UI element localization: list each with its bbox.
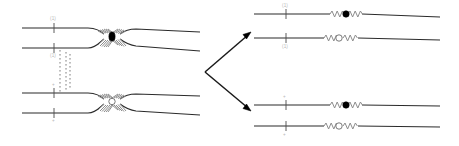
right-strand-2-label: (1)	[282, 44, 288, 49]
strand-2-line-out	[120, 39, 200, 51]
strand-4-line	[22, 104, 104, 113]
right-strand-3-line-out	[362, 105, 440, 106]
right-strand-1-line-out	[362, 14, 440, 17]
right-strand-2-squiggle-right	[343, 35, 357, 41]
strand-1-label: (1)	[50, 16, 56, 21]
figure-canvas: (1) (1) + +	[0, 0, 459, 146]
upper-right-panel: (1) (1)	[254, 3, 440, 49]
arrow-branch-up	[205, 35, 248, 72]
right-strand-4-squiggle-right	[343, 123, 357, 129]
right-strand-1-label: (1)	[282, 3, 288, 8]
branching-arrow	[205, 32, 251, 111]
right-strand-3-node-filled	[343, 102, 349, 108]
strand-2-line	[22, 39, 104, 48]
right-strand-3-label: +	[283, 94, 286, 99]
lower-right-panel: + +	[254, 94, 440, 137]
strand-3-label: +	[52, 82, 55, 87]
strand-1-line-out	[120, 29, 200, 34]
arrow-branch-down	[205, 72, 248, 108]
lower-crossing-node-open	[109, 98, 115, 104]
right-strand-1-squiggle-right	[348, 11, 362, 17]
lower-left-group: + +	[22, 82, 200, 123]
right-strand-4-label: +	[283, 132, 286, 137]
upper-crossing-node-filled	[109, 32, 115, 41]
strand-2-label: (1)	[50, 53, 56, 58]
strand-4-label: +	[52, 118, 55, 123]
strand-3-line	[22, 93, 104, 99]
vertical-dashed-guide	[60, 50, 70, 92]
right-strand-1-node-filled	[343, 11, 349, 17]
strand-3-line-out	[120, 94, 200, 99]
strand-1-line	[22, 28, 104, 34]
right-strand-2-node-open	[336, 35, 342, 41]
strand-4-line-out	[120, 104, 200, 115]
right-strand-4-line-out	[358, 126, 440, 127]
right-strand-4-node-open	[336, 123, 342, 129]
right-strand-2-line-out	[358, 38, 440, 40]
upper-left-group: (1) (1)	[22, 16, 200, 58]
right-strand-3-squiggle-right	[348, 102, 362, 108]
